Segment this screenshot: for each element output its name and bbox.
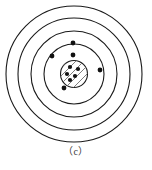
nucleus-particle: [68, 65, 72, 69]
electron-shell3-right: [98, 68, 103, 73]
electron-shell2-left: [50, 54, 55, 59]
electron-shell2-top: [71, 41, 76, 46]
nucleus-particle: [73, 74, 77, 78]
nucleus-particle: [65, 72, 69, 76]
nucleus-particle: [76, 67, 80, 71]
nucleus-particle: [68, 78, 72, 82]
electron-shell1-top: [71, 53, 76, 58]
figure-caption: （c）: [0, 146, 152, 158]
figure-container: （c）: [0, 0, 152, 170]
bohr-atom-diagram: [0, 0, 152, 170]
electron-shell1-bottomleft: [62, 86, 67, 91]
